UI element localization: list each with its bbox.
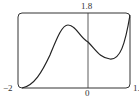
x-max-label: 1. [133, 84, 139, 93]
x-origin-label: 0 [85, 89, 90, 98]
x-min-label: −2 [3, 84, 13, 93]
function-curve [22, 15, 130, 88]
plot-frame [18, 13, 130, 88]
chart-canvas [0, 0, 139, 99]
y-max-label: 1.8 [81, 2, 92, 11]
